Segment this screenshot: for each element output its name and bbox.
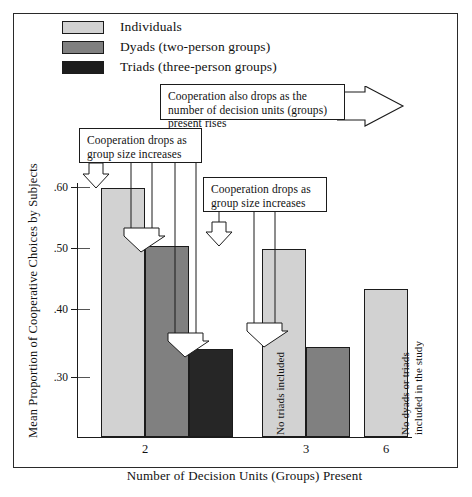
y-tick-label-040: .40 (54, 304, 68, 315)
bar-triads-2 (189, 349, 233, 437)
x-tick-label-2: 2 (125, 442, 165, 457)
plot-area: .60 .50 .40 .30 2 3 6 (77, 183, 412, 438)
bar-dyads-3 (306, 347, 350, 437)
bar-individuals-2 (101, 188, 145, 437)
y-axis-label: Mean Proportion of Cooperative Choices b… (26, 183, 40, 438)
y-tick-060 (71, 187, 77, 188)
legend-label-individuals: Individuals (120, 20, 182, 34)
legend-item-dyads: Dyads (two-person groups) (62, 38, 322, 56)
figure-container: Individuals Dyads (two-person groups) Tr… (0, 0, 472, 497)
y-tick-inner-040 (78, 309, 90, 310)
y-tick-label-030: .30 (54, 372, 68, 383)
y-tick-label-050: .50 (54, 243, 68, 254)
y-tick-label-060: .60 (54, 182, 68, 193)
y-tick-inner-060 (78, 187, 90, 188)
y-tick-030 (71, 377, 77, 378)
block-arrow-right-icon (337, 86, 407, 128)
x-tick-label-6: 6 (366, 442, 406, 457)
y-tick-050 (71, 248, 77, 249)
legend-item-triads: Triads (three-person groups) (62, 58, 322, 76)
legend: Individuals Dyads (two-person groups) Tr… (62, 18, 322, 78)
y-tick-040 (71, 309, 77, 310)
legend-swatch-icon-dyads (62, 41, 104, 54)
y-tick-inner-030 (78, 377, 90, 378)
x-tick-label-3: 3 (286, 442, 326, 457)
legend-item-individuals: Individuals (62, 18, 322, 36)
x-axis-label: Number of Decision Units (Groups) Presen… (77, 468, 412, 484)
y-tick-inner-050 (78, 248, 90, 249)
callout-box-middle: Cooperation drops as group size increase… (203, 177, 327, 212)
legend-swatch-icon-triads (62, 61, 104, 74)
note-no-dyads-or-triads: No dyads or triads included in the study (399, 322, 424, 435)
note-no-triads: No triads included (274, 330, 287, 435)
legend-label-dyads: Dyads (two-person groups) (120, 40, 270, 54)
legend-label-triads: Triads (three-person groups) (120, 60, 277, 74)
callout-box-top: Cooperation also drops as the number of … (160, 84, 345, 120)
x-axis (77, 437, 412, 438)
bar-dyads-2 (145, 246, 189, 437)
legend-swatch-icon-individuals (62, 21, 104, 34)
y-axis (77, 183, 78, 438)
callout-box-left: Cooperation drops as group size increase… (79, 128, 202, 163)
